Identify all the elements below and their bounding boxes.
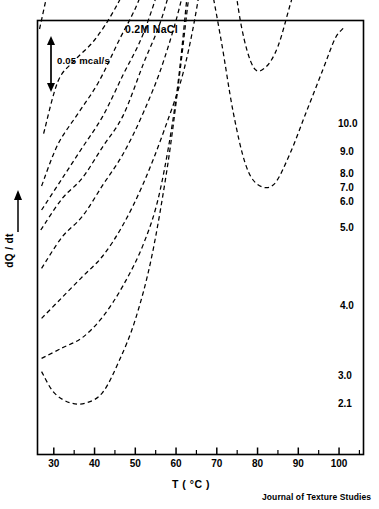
- curve-label-4-0: 4.0: [340, 300, 354, 311]
- scale-bar-label: 0.05 mcal/s: [57, 55, 110, 66]
- x-tick-label-30: 30: [48, 458, 59, 469]
- curve-3-0: [42, 0, 348, 358]
- curve-label-8-0: 8.0: [340, 168, 354, 179]
- plot-canvas: [0, 0, 379, 509]
- curve-label-7-0: 7.0: [340, 182, 354, 193]
- chart-title: 0.2M NaCl: [125, 23, 178, 35]
- curve-label-5-0: 5.0: [340, 222, 354, 233]
- curve-label-10-0: 10.0: [338, 118, 357, 129]
- curve-4-0: [42, 0, 346, 318]
- curve-label-6-0: 6.0: [340, 196, 354, 207]
- scale-bar-arrow: [47, 36, 55, 92]
- curve-7-0: [42, 0, 348, 210]
- x-tick-label-100: 100: [331, 458, 348, 469]
- curve-10-0: [40, 0, 348, 29]
- journal-credit: Journal of Texture Studies: [262, 492, 371, 502]
- x-tick-label-40: 40: [89, 458, 100, 469]
- x-tick-label-70: 70: [211, 458, 222, 469]
- curve-5-0: [42, 0, 352, 268]
- y-axis-label: dQ / dt: [4, 233, 15, 267]
- curve-6-0: [41, 0, 349, 230]
- dsc-thermogram-figure: 0.2M NaCl 0.05 mcal/s dQ / dt T ( °C ) J…: [0, 0, 379, 509]
- plot-frame: [38, 21, 364, 455]
- x-axis-label: T ( °C ): [172, 478, 210, 490]
- curve-label-9-0: 9.0: [340, 146, 354, 157]
- x-axis-ticks: [54, 448, 360, 455]
- curve-label-2-1: 2.1: [338, 398, 352, 409]
- y-axis-arrow-icon: [14, 190, 22, 232]
- x-tick-label-50: 50: [130, 458, 141, 469]
- x-tick-label-80: 80: [252, 458, 263, 469]
- x-tick-label-60: 60: [170, 458, 181, 469]
- x-tick-label-90: 90: [293, 458, 304, 469]
- curve-label-3-0: 3.0: [338, 370, 352, 381]
